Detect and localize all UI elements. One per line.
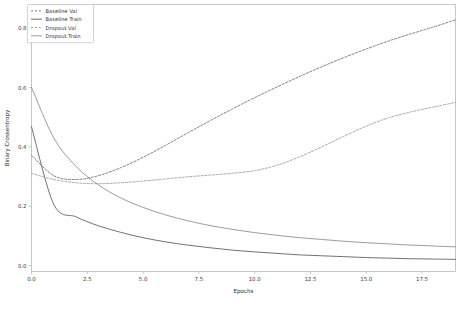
legend-label-dropout-val: Dropout Val xyxy=(46,25,76,32)
x-tick-label: 2.5 xyxy=(83,276,92,282)
x-tick-label: 0.0 xyxy=(27,276,36,282)
x-axis-title: Epochs xyxy=(233,288,253,295)
legend-label-baseline-train: Baseline Train xyxy=(46,16,82,22)
y-axis-title: Binary Crossentropy xyxy=(4,109,11,166)
line-chart: 0.02.55.07.510.012.515.017.5 0.00.20.40.… xyxy=(0,0,461,311)
y-tick-label: 0.8 xyxy=(18,25,27,31)
x-tick-label: 15.0 xyxy=(360,276,373,282)
y-tick-label: 0.2 xyxy=(18,203,27,209)
y-tick-label: 0.6 xyxy=(18,85,27,91)
x-tick-label: 17.5 xyxy=(416,276,428,282)
y-axis-tick-labels: 0.00.20.40.60.8 xyxy=(18,25,27,268)
x-tick-label: 10.0 xyxy=(249,276,262,282)
chart-figure: 0.02.55.07.510.012.515.017.5 0.00.20.40.… xyxy=(0,0,461,311)
tick-marks xyxy=(29,28,422,274)
legend-label-dropout-train: Dropout Train xyxy=(46,33,81,40)
series-line-baseline-train xyxy=(32,127,456,260)
legend-label-baseline-val: Baseline Val xyxy=(46,8,77,14)
chart-legend: Baseline ValBaseline TrainDropout ValDro… xyxy=(28,5,94,43)
series-line-dropout-train xyxy=(32,87,456,247)
series-line-baseline-val xyxy=(32,20,456,180)
series-line-dropout-val xyxy=(32,102,456,183)
y-tick-label: 0.0 xyxy=(18,263,27,269)
x-axis-tick-labels: 0.02.55.07.510.012.515.017.5 xyxy=(27,276,428,282)
x-tick-label: 5.0 xyxy=(139,276,148,282)
data-series-group xyxy=(32,20,456,259)
y-tick-label: 0.4 xyxy=(18,144,27,150)
x-tick-label: 7.5 xyxy=(195,276,204,282)
x-tick-label: 12.5 xyxy=(304,276,316,282)
